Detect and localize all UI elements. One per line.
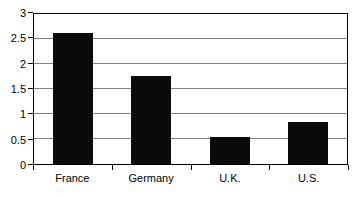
y-axis-tick-labels: 00.511.522.53 xyxy=(0,13,26,165)
x-axis-category-labels: FranceGermanyU.K.U.S. xyxy=(33,172,348,184)
x-axis-tick-mark xyxy=(348,165,349,170)
bar-series xyxy=(34,14,347,164)
plot-area xyxy=(33,13,348,165)
y-axis-tick-label: 0.5 xyxy=(11,134,26,145)
y-axis-tick-label: 3 xyxy=(20,8,26,19)
y-axis-tick-label: 0 xyxy=(20,160,26,171)
x-axis-tick-mark xyxy=(191,165,192,170)
bar-chart-figure: 00.511.522.53 FranceGermanyU.K.U.S. xyxy=(0,0,360,197)
x-axis-category-label: Germany xyxy=(112,172,191,184)
y-axis-tick-label: 2 xyxy=(20,58,26,69)
x-axis-tick-mark xyxy=(112,165,113,170)
bar xyxy=(131,76,171,165)
y-axis-tick-label: 2.5 xyxy=(11,33,26,44)
x-axis-tick-marks xyxy=(33,165,348,170)
bar xyxy=(53,33,93,164)
bar-slot xyxy=(269,14,347,164)
bar-slot xyxy=(191,14,269,164)
y-axis-tick-label: 1.5 xyxy=(11,84,26,95)
y-axis-tick-label: 1 xyxy=(20,109,26,120)
bar-slot xyxy=(34,14,112,164)
bar xyxy=(210,137,250,165)
x-axis-tick-mark xyxy=(269,165,270,170)
x-axis-category-label: U.K. xyxy=(191,172,270,184)
x-axis-category-label: U.S. xyxy=(269,172,348,184)
x-axis-category-label: France xyxy=(33,172,112,184)
x-axis-tick-mark xyxy=(33,165,34,170)
bar xyxy=(288,122,328,165)
bar-slot xyxy=(112,14,190,164)
